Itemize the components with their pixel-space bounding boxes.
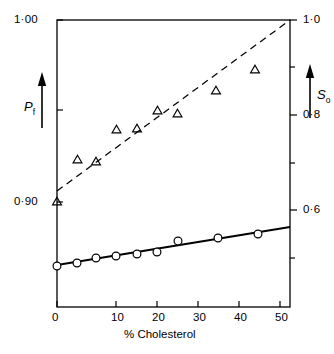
scatter-plot-svg	[0, 0, 334, 354]
marker-triangle	[133, 124, 142, 132]
data-markers-so	[53, 65, 260, 205]
marker-triangle	[153, 106, 162, 114]
x-tick-label-0: 0	[52, 312, 59, 324]
x-tick-label-20: 20	[152, 312, 165, 324]
bottom-axis-ticks	[57, 301, 280, 307]
right-tick-label-0-8: 0·8	[303, 109, 320, 121]
marker-circle	[153, 248, 161, 256]
marker-circle	[92, 254, 100, 262]
marker-circle	[254, 230, 262, 238]
left-axis-symbol: Pf	[24, 100, 35, 116]
x-axis-title: % Cholesterol	[124, 329, 196, 341]
marker-circle	[214, 234, 222, 242]
marker-circle	[133, 250, 141, 258]
left-axis-symbol-base: P	[24, 99, 33, 114]
x-tick-label-50: 50	[275, 312, 288, 324]
marker-triangle	[112, 125, 121, 133]
marker-triangle	[212, 86, 221, 94]
right-tick-label-0-6: 0·6	[303, 204, 320, 216]
left-axis-ticks	[57, 20, 63, 202]
marker-triangle	[92, 157, 101, 165]
x-tick-label-40: 40	[234, 312, 247, 324]
left-tick-label-1-00: 1·00	[14, 14, 38, 26]
right-axis-symbol-subscript: o	[326, 95, 331, 105]
left-tick-label-0-90: 0·90	[14, 196, 38, 208]
up-arrow-icon-left	[38, 72, 46, 128]
right-axis-symbol: So	[317, 88, 330, 104]
marker-triangle	[251, 65, 260, 73]
marker-triangle	[173, 109, 182, 117]
right-axis-ticks	[290, 20, 297, 258]
marker-circle	[112, 252, 120, 260]
marker-circle	[53, 262, 61, 270]
x-tick-label-30: 30	[193, 312, 206, 324]
marker-circle	[174, 237, 182, 245]
right-axis-symbol-base: S	[317, 87, 326, 102]
marker-triangle	[73, 155, 82, 163]
chart-figure: 1·00 0·90 1·0 0·8 0·6 0 10 20 30 40 50 %…	[0, 0, 334, 354]
x-tick-label-10: 10	[111, 312, 124, 324]
right-tick-label-1-0: 1·0	[303, 14, 320, 26]
left-axis-symbol-subscript: f	[33, 107, 35, 117]
marker-circle	[73, 259, 81, 267]
